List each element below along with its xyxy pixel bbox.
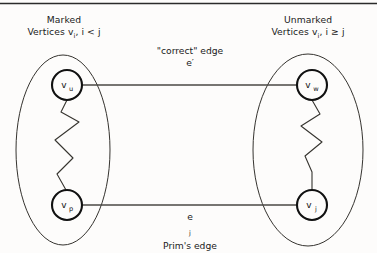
unmarked-set-heading: Unmarked: [284, 14, 332, 25]
prims-edge-sub-j: j: [189, 229, 191, 237]
unmarked-set-subheading: Vertices vi, i ≥ j: [253, 26, 363, 42]
node-v-j-subscript: j: [314, 205, 317, 213]
node-v-j: v j: [297, 190, 327, 220]
node-v-w-base: v: [305, 80, 311, 90]
node-v-j-circle: [297, 190, 327, 220]
node-v-u: v u: [52, 70, 82, 100]
node-v-u-base: v: [61, 80, 67, 90]
marked-set-label: Marked Vertices vi, i < j: [13, 14, 115, 42]
correct-edge-label-line2: e′: [130, 57, 250, 69]
node-v-u-subscript: u: [69, 85, 73, 93]
node-v-j-base: v: [306, 200, 312, 210]
left-tree-path: [55, 100, 79, 190]
node-v-p-circle: [52, 190, 82, 220]
figure-canvas: v u v p v w v j Marked Vertices vi, i < …: [0, 0, 377, 253]
correct-edge-label-line1: "correct" edge: [130, 45, 250, 57]
right-tree-path: [301, 100, 322, 190]
correct-edge-label: "correct" edge e′: [130, 45, 250, 70]
node-v-u-circle: [52, 70, 82, 100]
node-v-w-circle: [297, 70, 327, 100]
prims-edge-label-line2: Prim's edge: [130, 240, 250, 252]
node-v-p: v p: [52, 190, 82, 220]
node-v-p-base: v: [61, 200, 67, 210]
node-v-p-subscript: p: [69, 205, 73, 213]
unmarked-set-label: Unmarked Vertices vi, i ≥ j: [253, 14, 363, 42]
prims-edge-label: ej Prim's edge: [130, 211, 250, 252]
marked-set-subheading: Vertices vi, i < j: [13, 26, 115, 42]
node-v-w: v w: [297, 70, 327, 100]
prims-edge-label-line1: ej: [130, 211, 250, 240]
node-v-w-subscript: w: [313, 85, 319, 93]
marked-set-heading: Marked: [47, 14, 81, 25]
